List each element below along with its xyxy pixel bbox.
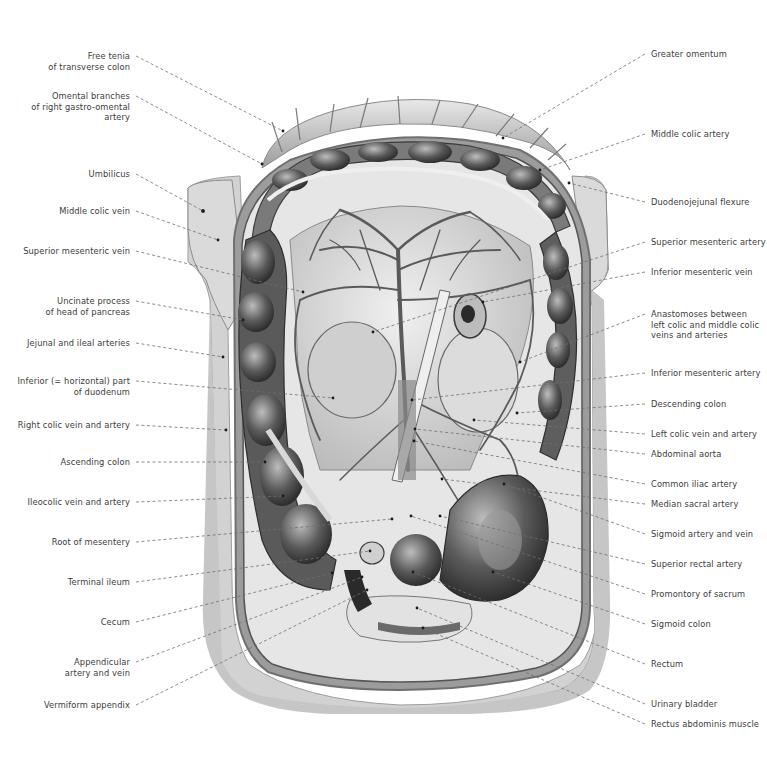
label-superior-rectal-artery: Superior rectal artery — [651, 559, 742, 570]
label-inferior-mesenteric-artery: Inferior mesenteric artery — [651, 368, 761, 379]
target-dot-superior-rectal-artery — [439, 515, 442, 518]
label-rectum: Rectum — [651, 659, 683, 670]
target-dot-descending-colon — [516, 412, 519, 415]
label-right-colic: Right colic vein and artery — [18, 420, 130, 431]
label-umbilicus: Umbilicus — [89, 169, 130, 180]
label-vermiform-appendix: Vermiform appendix — [44, 700, 130, 711]
target-dot-right-colic — [225, 429, 228, 432]
target-dot-sigmoid-artery-vein — [503, 483, 506, 486]
label-superior-mesenteric-artery: Superior mesenteric artery — [651, 237, 766, 248]
target-dot-common-iliac-artery — [413, 440, 416, 443]
target-dot-median-sacral-artery — [441, 478, 444, 481]
target-dot-left-colic — [473, 419, 476, 422]
label-inferior-duodenum: Inferior (= horizontal) part of duodenum — [18, 376, 130, 397]
label-sigmoid-artery-vein: Sigmoid artery and vein — [651, 529, 753, 540]
label-middle-colic-vein: Middle colic vein — [59, 206, 130, 217]
target-dot-superior-mesenteric-artery — [372, 331, 375, 334]
label-terminal-ileum: Terminal ileum — [68, 577, 130, 588]
target-dot-free-tenia — [282, 130, 285, 133]
target-dot-inferior-duodenum — [332, 397, 335, 400]
target-dot-root-of-mesentery — [391, 518, 394, 521]
label-free-tenia: Free tenia of transverse colon — [48, 51, 130, 72]
target-dot-middle-colic-vein — [217, 239, 220, 242]
leader-line-omental-branches — [136, 96, 262, 164]
label-abdominal-aorta: Abdominal aorta — [651, 449, 721, 460]
leader-line-greater-omentum — [503, 54, 645, 138]
label-median-sacral-artery: Median sacral artery — [651, 499, 738, 510]
target-dot-ileocolic — [282, 495, 285, 498]
label-rectus-abdominis: Rectus abdominis muscle — [651, 719, 759, 730]
label-root-of-mesentery: Root of mesentery — [52, 537, 130, 548]
label-uncinate-process: Uncinate process of head of pancreas — [46, 296, 130, 317]
label-left-colic: Left colic vein and artery — [651, 429, 757, 440]
target-dot-terminal-ileum — [369, 550, 372, 553]
target-dot-omental-branches — [261, 163, 264, 166]
label-jejunal-ileal-arteries: Jejunal and ileal arteries — [27, 338, 130, 349]
label-promontory-of-sacrum: Promontory of sacrum — [651, 589, 745, 600]
label-descending-colon: Descending colon — [651, 399, 726, 410]
target-dot-anastomoses — [519, 361, 522, 364]
target-dot-inferior-mesenteric-artery — [411, 399, 414, 402]
target-dot-duodenojejunal-flexure — [568, 182, 571, 185]
label-omental-branches: Omental branches of right gastro-omental… — [31, 91, 130, 123]
target-dot-uncinate-process — [242, 319, 245, 322]
target-dot-superior-mesenteric-vein — [302, 291, 305, 294]
target-dot-jejunal-ileal-arteries — [222, 356, 225, 359]
target-dot-rectus-abdominis — [422, 627, 425, 630]
label-cecum: Cecum — [101, 617, 130, 628]
label-urinary-bladder: Urinary bladder — [651, 699, 717, 710]
target-dot-abdominal-aorta — [414, 428, 417, 431]
label-inferior-mesenteric-vein: Inferior mesenteric vein — [651, 267, 753, 278]
label-appendicular: Appendicular artery and vein — [65, 657, 130, 678]
label-duodenojejunal-flexure: Duodenojejunal flexure — [651, 197, 750, 208]
label-sigmoid-colon: Sigmoid colon — [651, 619, 711, 630]
target-dot-ascending-colon — [264, 461, 267, 464]
target-dot-urinary-bladder — [416, 607, 419, 610]
label-middle-colic-artery: Middle colic artery — [651, 129, 730, 140]
label-greater-omentum: Greater omentum — [651, 49, 727, 60]
target-dot-rectum — [412, 571, 415, 574]
target-dot-vermiform-appendix — [366, 589, 369, 592]
target-dot-appendicular — [361, 576, 364, 579]
leader-line-free-tenia — [136, 56, 283, 131]
label-common-iliac-artery: Common iliac artery — [651, 479, 737, 490]
anatomy-figure: Free tenia of transverse colonOmental br… — [0, 0, 767, 779]
target-dot-umbilicus — [202, 210, 205, 213]
target-dot-cecum — [331, 572, 334, 575]
label-superior-mesenteric-vein: Superior mesenteric vein — [23, 246, 130, 257]
label-ascending-colon: Ascending colon — [61, 457, 130, 468]
label-anastomoses: Anastomoses between left colic and middl… — [651, 309, 759, 341]
terminal-ileum-shape — [360, 542, 384, 564]
target-dot-promontory-of-sacrum — [410, 515, 413, 518]
target-dot-greater-omentum — [502, 137, 505, 140]
target-dot-sigmoid-colon — [492, 571, 495, 574]
target-dot-middle-colic-artery — [539, 169, 542, 172]
target-dot-inferior-mesenteric-vein — [482, 301, 485, 304]
aorta-shape — [398, 380, 416, 480]
label-ileocolic: Ileocolic vein and artery — [27, 497, 130, 508]
